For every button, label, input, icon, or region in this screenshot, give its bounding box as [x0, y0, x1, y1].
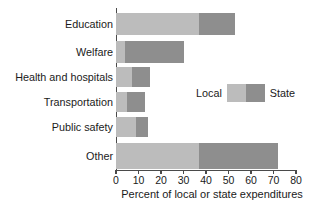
bar-public-safety: [0, 117, 315, 137]
bar-segment-local: [116, 41, 125, 63]
legend: Local State: [196, 84, 295, 102]
bar-education: [0, 13, 315, 35]
x-tick-label: 70: [262, 174, 286, 186]
bar-other: [0, 143, 315, 169]
category-label: Welfare: [76, 47, 113, 58]
category-label: Other: [86, 151, 113, 162]
legend-swatch-local: [227, 84, 246, 102]
bar-segment-state: [199, 13, 235, 35]
bar-welfare: [0, 41, 315, 63]
category-label: Education: [65, 19, 113, 30]
x-tick-label: 40: [194, 174, 218, 186]
bar-segment-local: [116, 117, 136, 137]
category-label: Transportation: [44, 97, 113, 108]
x-tick-label: 10: [127, 174, 151, 186]
x-tick-label: 60: [239, 174, 263, 186]
legend-swatches: [227, 84, 265, 102]
x-axis-title: Percent of local or state expenditures: [116, 188, 308, 200]
bar-segment-local: [116, 143, 199, 169]
bar-segment-state: [127, 92, 145, 112]
x-tick-label: 50: [217, 174, 241, 186]
bar-segment-state: [136, 117, 147, 137]
x-tick-label: 20: [149, 174, 173, 186]
bar-segment-state: [199, 143, 278, 169]
x-tick-label: 0: [104, 174, 128, 186]
bar-segment-local: [116, 92, 127, 112]
bar-segment-state: [132, 67, 150, 87]
legend-label-local: Local: [196, 87, 222, 99]
x-tick-label: 80: [284, 174, 308, 186]
bar-segment-state: [125, 41, 184, 63]
legend-swatch-state: [246, 84, 265, 102]
bar-segment-local: [116, 67, 132, 87]
bar-chart: 01020304050607080 EducationWelfareHealth…: [0, 0, 315, 209]
category-label: Health and hospitals: [15, 72, 113, 83]
x-tick-label: 30: [172, 174, 196, 186]
bar-segment-local: [116, 13, 199, 35]
legend-label-state: State: [270, 87, 295, 99]
category-label: Public safety: [52, 122, 113, 133]
